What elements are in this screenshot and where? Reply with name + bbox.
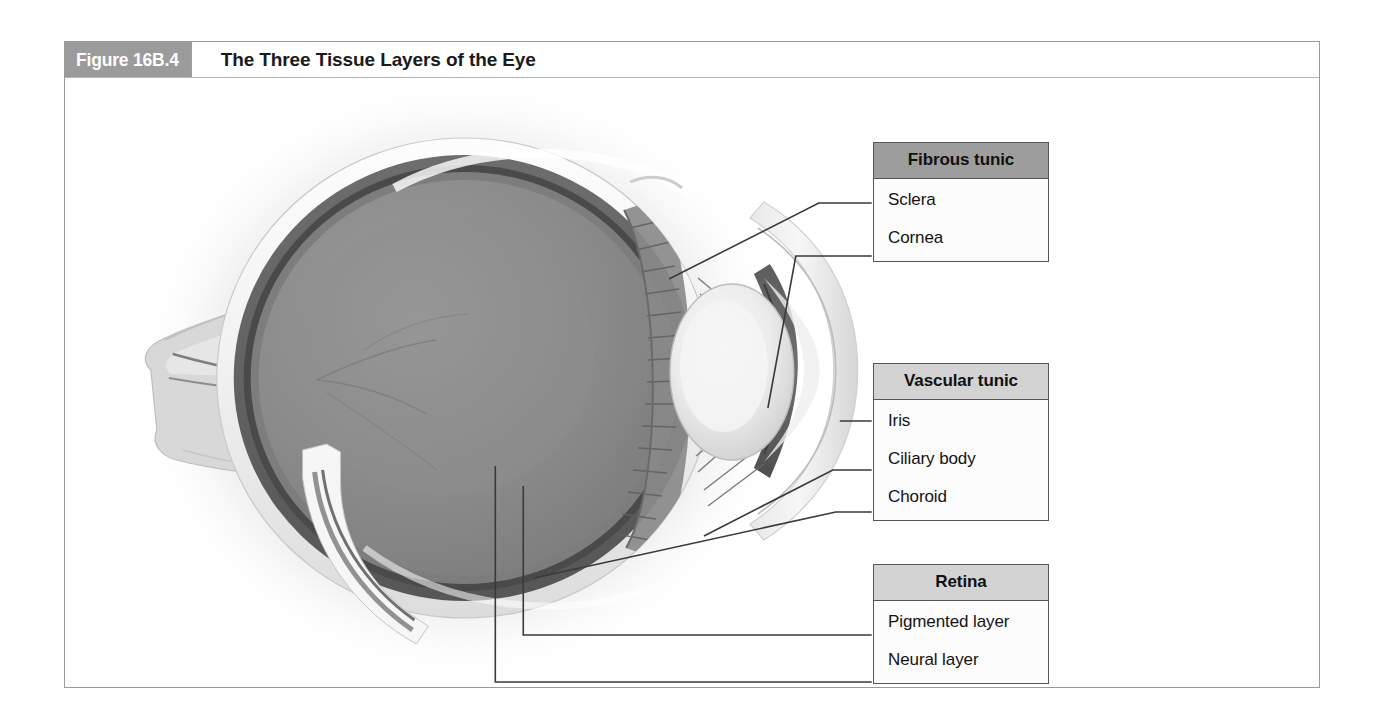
label-box-header-retina: Retina [874,565,1048,601]
label-item-sclera: Sclera [874,181,1048,219]
leader-line-cornea [768,256,872,408]
illustration-area: Fibrous tunic Sclera Cornea Vascular tun… [65,78,1319,688]
figure-title: The Three Tissue Layers of the Eye [203,42,1319,77]
label-item-neural-layer: Neural layer [874,641,1048,679]
leader-line-choroid [534,512,871,578]
figure-frame: Figure 16B.4 The Three Tissue Layers of … [64,41,1320,688]
label-box-body-fibrous-tunic: Sclera Cornea [874,179,1048,261]
label-box-header-fibrous-tunic: Fibrous tunic [874,143,1048,179]
label-box-body-retina: Pigmented layer Neural layer [874,601,1048,683]
figure-header: Figure 16B.4 The Three Tissue Layers of … [65,42,1319,78]
label-item-choroid: Choroid [874,478,1048,516]
label-box-body-vascular-tunic: Iris Ciliary body Choroid [874,400,1048,520]
label-box-retina: Retina Pigmented layer Neural layer [873,564,1049,684]
label-item-cornea: Cornea [874,219,1048,257]
leader-line-sclera [669,203,872,279]
leader-lines [65,78,1319,688]
leader-line-pigmented-layer [523,486,871,635]
label-box-fibrous-tunic: Fibrous tunic Sclera Cornea [873,142,1049,262]
figure-number-label: Figure 16B.4 [65,42,192,77]
label-item-pigmented-layer: Pigmented layer [874,603,1048,641]
label-box-vascular-tunic: Vascular tunic Iris Ciliary body Choroid [873,363,1049,521]
label-item-ciliary-body: Ciliary body [874,440,1048,478]
leader-line-ciliary-body [704,470,872,536]
label-item-iris: Iris [874,402,1048,440]
label-box-header-vascular-tunic: Vascular tunic [874,364,1048,400]
